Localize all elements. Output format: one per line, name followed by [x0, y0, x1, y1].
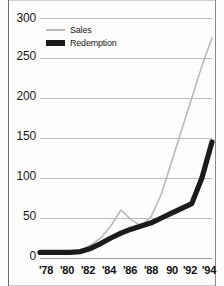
y-axis-tick-250: 250 [2, 51, 36, 61]
legend-label-redemption: Redemption [70, 38, 117, 48]
series-line-redemption [40, 142, 212, 252]
y-axis-tick-200: 200 [2, 91, 36, 101]
x-axis-tick-94: '94 [197, 264, 221, 276]
y-axis-tick-0: 0 [2, 251, 36, 261]
series-layer [40, 18, 212, 259]
figure-border-left [8, 0, 9, 286]
chart-figure: 300 250 200 150 100 50 0 '78 '80 '82 '84… [0, 0, 224, 286]
legend-item-redemption: Redemption [46, 37, 156, 48]
legend-label-sales: Sales [70, 25, 92, 35]
plot-area [40, 18, 212, 258]
figure-border-right [215, 0, 216, 286]
figure-border-top [8, 0, 216, 1]
series-line-sales [40, 38, 212, 252]
chart-legend: Sales Redemption [46, 24, 156, 50]
legend-swatch-redemption-icon [46, 40, 65, 46]
legend-swatch-sales-icon [46, 29, 65, 31]
legend-item-sales: Sales [46, 24, 156, 35]
y-axis-tick-300: 300 [2, 13, 36, 23]
y-axis-tick-50: 50 [2, 211, 36, 221]
y-axis-tick-150: 150 [2, 131, 36, 141]
y-axis-tick-100: 100 [2, 171, 36, 181]
